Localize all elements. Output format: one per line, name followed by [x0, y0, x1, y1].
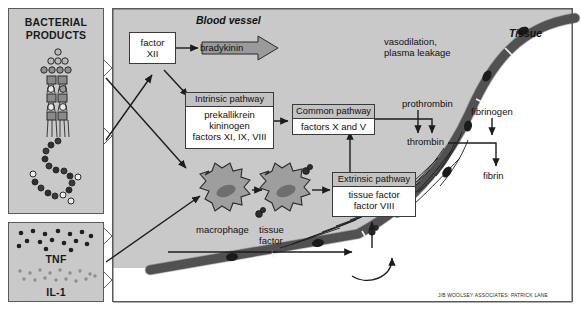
- label-tissue-factor: tissue factor: [259, 224, 284, 246]
- box-common-pathway-line-1: factors X and V: [296, 121, 371, 132]
- label-macrophage: macrophage: [196, 224, 249, 235]
- label-bradykinin: bradykinin: [200, 42, 243, 53]
- label-prothrombin: prothrombin: [402, 98, 453, 109]
- panel-main-diagram: [112, 8, 573, 302]
- label-tissue-factor-line-1: tissue: [259, 224, 284, 235]
- panel-cytokines: TNF IL-1: [8, 222, 104, 302]
- box-extrinsic-pathway[interactable]: Extrinsic pathway tissue factor factor V…: [332, 172, 416, 217]
- label-vasodilation: vasodilation, plasma leakage: [384, 36, 451, 58]
- panel-bacterial-products-label-1: BACTERIAL: [9, 16, 103, 28]
- lps-molecule-graphic: [27, 47, 89, 139]
- box-extrinsic-pathway-line-2: factor VIII: [336, 200, 412, 211]
- label-vasodilation-line-2: plasma leakage: [384, 47, 451, 58]
- box-extrinsic-pathway-line-1: tissue factor: [336, 189, 412, 200]
- region-title-tissue: Tissue: [509, 27, 542, 39]
- box-intrinsic-pathway-line-1: prekallikrein: [189, 109, 270, 120]
- box-intrinsic-pathway-line-2: kininogen: [189, 120, 270, 131]
- panel-bacterial-products-label-2: PRODUCTS: [9, 29, 103, 41]
- box-common-pathway-header: Common pathway: [293, 105, 374, 119]
- label-tissue-factor-line-2: factor: [259, 235, 284, 246]
- panel-label-il1: IL-1: [9, 286, 103, 298]
- credit-line: J/B WOOLSEY ASSOCIATES: PATRICK LANE: [438, 292, 548, 298]
- label-fibrinogen: fibrinogen: [471, 106, 513, 117]
- panel-bacterial-products: BACTERIAL PRODUCTS: [8, 8, 104, 214]
- label-vasodilation-line-1: vasodilation,: [384, 36, 451, 47]
- box-factor-xii-line-2: XII: [133, 48, 172, 59]
- box-intrinsic-pathway[interactable]: Intrinsic pathway prekallikrein kininoge…: [185, 92, 274, 149]
- region-title-blood-vessel: Blood vessel: [196, 14, 261, 26]
- box-factor-xii[interactable]: factor XII: [129, 32, 176, 64]
- box-factor-xii-line-1: factor: [133, 37, 172, 48]
- label-thrombin: thrombin: [407, 136, 444, 147]
- panel-label-tnf: TNF: [9, 253, 103, 265]
- label-fibrin: fibrin: [483, 170, 504, 181]
- box-common-pathway[interactable]: Common pathway factors X and V: [292, 104, 375, 135]
- figure-canvas: BACTERIAL PRODUCTS: [0, 0, 581, 314]
- box-intrinsic-pathway-header: Intrinsic pathway: [186, 93, 273, 107]
- box-intrinsic-pathway-line-3: factors XI, IX, VIII: [189, 131, 270, 142]
- box-extrinsic-pathway-header: Extrinsic pathway: [333, 173, 415, 187]
- peptide-chain-graphic: [25, 137, 91, 209]
